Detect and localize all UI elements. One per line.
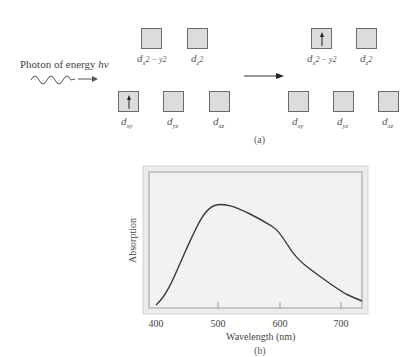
y-axis-label: Absorption <box>127 218 138 263</box>
x-tick-label: 400 <box>149 318 164 329</box>
x-axis-label: Wavelength (nm) <box>226 331 295 342</box>
x-tick-label: 700 <box>334 318 349 329</box>
x-tick-label: 500 <box>211 318 226 329</box>
absorption-chart <box>0 0 419 357</box>
x-tick-label: 600 <box>273 318 288 329</box>
caption-b: (b) <box>254 345 266 356</box>
